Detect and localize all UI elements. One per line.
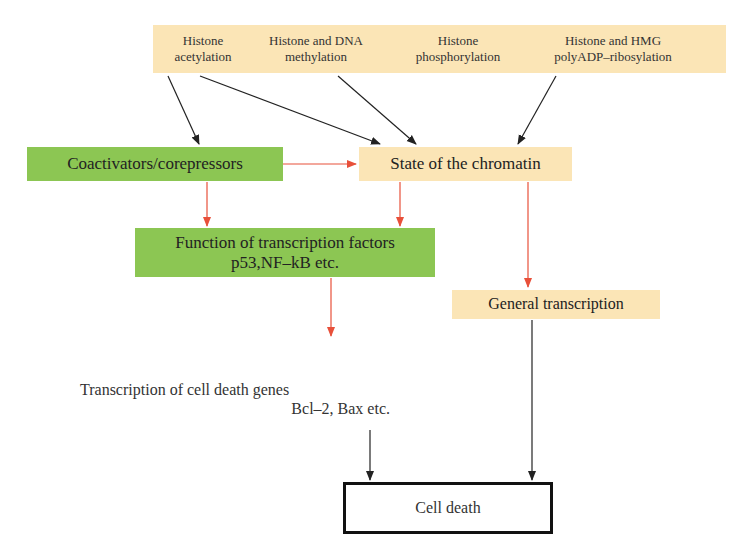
node-cell-death-genes: Transcription of cell death genes Bcl–2,… (80, 380, 390, 418)
arrow-acetylation-to-chromatin (200, 76, 380, 144)
arrow-ribosylation-to-chromatin (518, 76, 556, 144)
node-label-line2: p53,NF–kB etc. (231, 253, 339, 273)
node-label: Coactivators/corepressors (67, 154, 243, 174)
node-label-line1: Function of transcription factors (175, 233, 395, 253)
node-label: General transcription (488, 295, 624, 313)
node-coactivators: Coactivators/corepressors (27, 147, 283, 181)
node-transcription-factors: Function of transcription factors p53,NF… (135, 228, 435, 277)
node-label-line1: Transcription of cell death genes (80, 380, 390, 399)
node-general-transcription: General transcription (452, 290, 660, 319)
node-label: State of the chromatin (390, 154, 541, 174)
node-label-line2: Bcl–2, Bax etc. (80, 399, 390, 418)
arrow-acetylation-to-coactivators (168, 76, 199, 144)
node-cell-death: Cell death (343, 482, 553, 534)
arrow-methylation-to-chromatin (338, 76, 416, 144)
node-label: Cell death (415, 499, 480, 517)
node-chromatin-state: State of the chromatin (359, 147, 572, 181)
